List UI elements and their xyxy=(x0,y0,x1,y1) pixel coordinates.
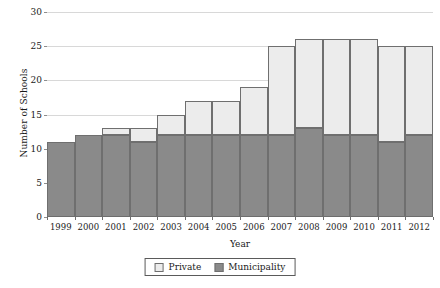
legend-swatch-icon xyxy=(155,263,164,272)
x-tick-label: 2000 xyxy=(78,222,100,232)
y-tick-label: 0 xyxy=(36,212,42,222)
x-tick-label: 2005 xyxy=(215,222,237,232)
chart-legend: PrivateMunicipality xyxy=(145,258,296,276)
x-axis-line xyxy=(47,216,433,217)
x-tick-mark xyxy=(378,217,379,220)
y-tick-label: 5 xyxy=(36,178,42,188)
y-tick-label: 10 xyxy=(31,144,42,154)
x-tick-mark xyxy=(268,217,269,220)
x-tick-label: 2004 xyxy=(188,222,210,232)
x-tick-mark xyxy=(405,217,406,220)
x-tick-label: 1999 xyxy=(50,222,72,232)
x-tick-label: 2003 xyxy=(160,222,182,232)
x-tick-mark xyxy=(130,217,131,220)
plot-area: 051015202530 199920002001200220032004200… xyxy=(47,12,433,217)
legend-swatch-icon xyxy=(214,263,223,272)
x-tick-label: 2012 xyxy=(408,222,430,232)
x-tick-mark xyxy=(433,217,434,220)
legend-label: Private xyxy=(169,262,202,272)
x-tick-mark xyxy=(47,217,48,220)
x-tick-mark xyxy=(75,217,76,220)
y-tick-label: 30 xyxy=(31,7,42,17)
legend-item: Private xyxy=(155,262,202,272)
x-tick-label: 2001 xyxy=(105,222,127,232)
y-axis-title: Number of Schools xyxy=(19,48,29,178)
legend-label: Municipality xyxy=(228,262,285,272)
y-tick-label: 20 xyxy=(31,75,42,85)
x-tick-mark xyxy=(350,217,351,220)
x-tick-mark xyxy=(185,217,186,220)
x-tick-label: 2006 xyxy=(243,222,265,232)
y-tick-label: 25 xyxy=(31,41,42,51)
x-tick-label: 2010 xyxy=(353,222,375,232)
x-tick-label: 2011 xyxy=(381,222,403,232)
x-tick-label: 2009 xyxy=(326,222,348,232)
y-tick-label: 15 xyxy=(31,110,42,120)
stacked-bar-chart: Number of Schools 051015202530 199920002… xyxy=(0,0,440,288)
x-tick-mark xyxy=(102,217,103,220)
x-tick-mark xyxy=(323,217,324,220)
legend-item: Municipality xyxy=(214,262,285,272)
x-tick-mark xyxy=(212,217,213,220)
x-tick-mark xyxy=(295,217,296,220)
x-tick-label: 2007 xyxy=(271,222,293,232)
x-axis-ticks: 1999200020012002200320042005200620072008… xyxy=(47,12,433,217)
x-tick-mark xyxy=(240,217,241,220)
x-tick-label: 2008 xyxy=(298,222,320,232)
x-tick-mark xyxy=(157,217,158,220)
x-axis-title: Year xyxy=(47,239,433,249)
x-tick-label: 2002 xyxy=(133,222,155,232)
